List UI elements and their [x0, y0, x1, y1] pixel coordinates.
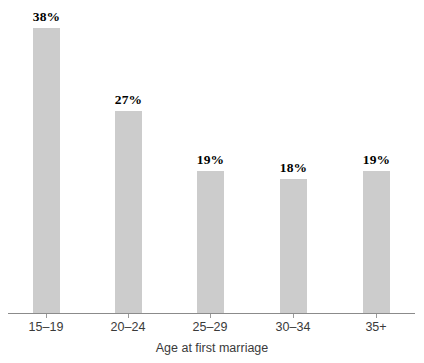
x-axis-line	[8, 313, 415, 314]
x-axis-tick-label: 30–34	[276, 320, 311, 334]
x-axis-title: Age at first marriage	[0, 341, 424, 355]
x-axis-tick-label: 35+	[365, 320, 386, 334]
bar-rect[interactable]	[363, 171, 390, 314]
x-axis-tick	[376, 314, 377, 318]
bar-rect[interactable]	[280, 179, 307, 314]
x-axis-tick-label: 15–19	[29, 320, 64, 334]
x-axis-tick	[210, 314, 211, 318]
x-axis-tick-label: 20–24	[111, 320, 146, 334]
bar-chart: 38% 27% 19% 18% 19% 15–19 20–24 25–29 30…	[0, 0, 424, 363]
x-axis-tick	[46, 314, 47, 318]
x-axis-tick	[293, 314, 294, 318]
bar-rect[interactable]	[33, 28, 60, 314]
bar-value-label: 27%	[115, 92, 143, 108]
bar-value-label: 18%	[280, 160, 308, 176]
plot-area: 38% 27% 19% 18% 19%	[0, 0, 424, 314]
bar-value-label: 19%	[197, 152, 225, 168]
x-axis-tick	[128, 314, 129, 318]
bar-rect[interactable]	[115, 111, 142, 314]
bar-rect[interactable]	[197, 171, 224, 314]
x-axis-tick-label: 25–29	[193, 320, 228, 334]
bar-value-label: 19%	[363, 152, 391, 168]
bar-value-label: 38%	[33, 9, 61, 25]
